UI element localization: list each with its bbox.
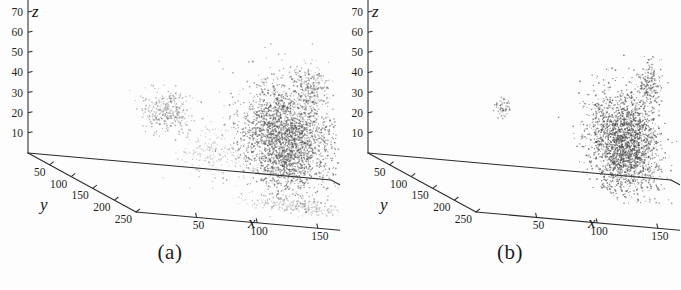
data-point [281,96,282,97]
data-point [305,151,306,152]
data-point [308,122,309,123]
panel-b: 1020304050607050100150200250250200150100… [340,0,680,290]
data-point [214,141,215,142]
data-point [613,151,614,152]
data-point [267,168,268,169]
data-point [624,171,625,172]
data-point [648,120,649,121]
z-tick-label: 50 [352,46,364,58]
data-point [605,150,607,152]
data-point [317,126,318,127]
data-point [244,155,245,156]
data-point [317,67,318,68]
data-point [623,111,624,112]
data-point [309,80,310,81]
data-point [626,153,627,154]
data-point [620,115,621,116]
data-point [304,60,305,61]
data-point [300,187,301,188]
data-point [605,115,606,116]
data-point [233,148,235,150]
data-point [308,206,309,207]
data-point [228,130,229,131]
data-point [279,127,280,128]
data-point [209,165,210,166]
data-point [646,83,647,84]
data-point [265,148,266,149]
data-point [633,120,634,121]
data-point [303,157,304,158]
data-point [278,160,279,161]
data-point [260,122,261,123]
data-point [270,131,271,132]
data-point [646,92,648,94]
data-point [307,169,308,170]
data-point [637,183,638,184]
data-point [290,99,291,100]
data-point [289,140,290,141]
data-point [319,154,321,156]
data-point [322,93,323,94]
data-point [596,131,597,132]
data-point [648,111,649,112]
data-point [619,148,620,149]
data-point [252,134,254,136]
data-point [320,202,322,204]
data-point [312,167,313,168]
data-point [281,117,282,118]
data-point [625,101,627,103]
data-point [267,145,268,146]
data-point [658,127,660,129]
data-point [278,163,279,164]
data-point [635,158,636,159]
data-point [275,117,276,118]
data-point [325,80,327,82]
data-point [313,115,314,116]
data-point [285,146,286,147]
data-point [293,158,294,159]
data-point [285,175,286,176]
data-point [651,64,652,65]
data-point [609,167,610,168]
data-point [596,103,597,104]
data-point [621,109,623,111]
data-point [292,115,293,116]
data-point [603,183,604,184]
data-point [644,156,646,158]
data-point [636,124,637,125]
data-point [317,191,319,193]
z-tick-mark [368,92,373,93]
data-point [268,174,269,175]
data-point [626,180,627,181]
data-point [620,94,621,95]
data-point [601,112,602,113]
z-tick-label: 50 [12,46,24,58]
data-point [279,161,280,162]
data-point [622,172,623,173]
data-point [284,154,285,155]
data-point [205,158,206,159]
data-point [304,183,305,184]
data-point [298,123,299,124]
data-point [304,142,306,144]
data-point [292,131,293,132]
data-point [301,113,302,114]
data-point [598,99,599,100]
data-point [291,126,293,128]
data-point [501,101,502,102]
data-point [250,139,251,140]
data-point [262,202,263,203]
data-point [233,143,234,144]
data-point [617,125,618,126]
data-point [314,173,315,174]
data-point [594,148,595,149]
data-point [311,102,313,104]
data-point [221,172,222,173]
data-point [603,126,604,127]
data-point [664,152,665,153]
data-point [243,88,244,89]
data-point [258,171,259,172]
data-point [654,130,655,131]
data-point [289,153,291,155]
data-point [631,122,632,123]
